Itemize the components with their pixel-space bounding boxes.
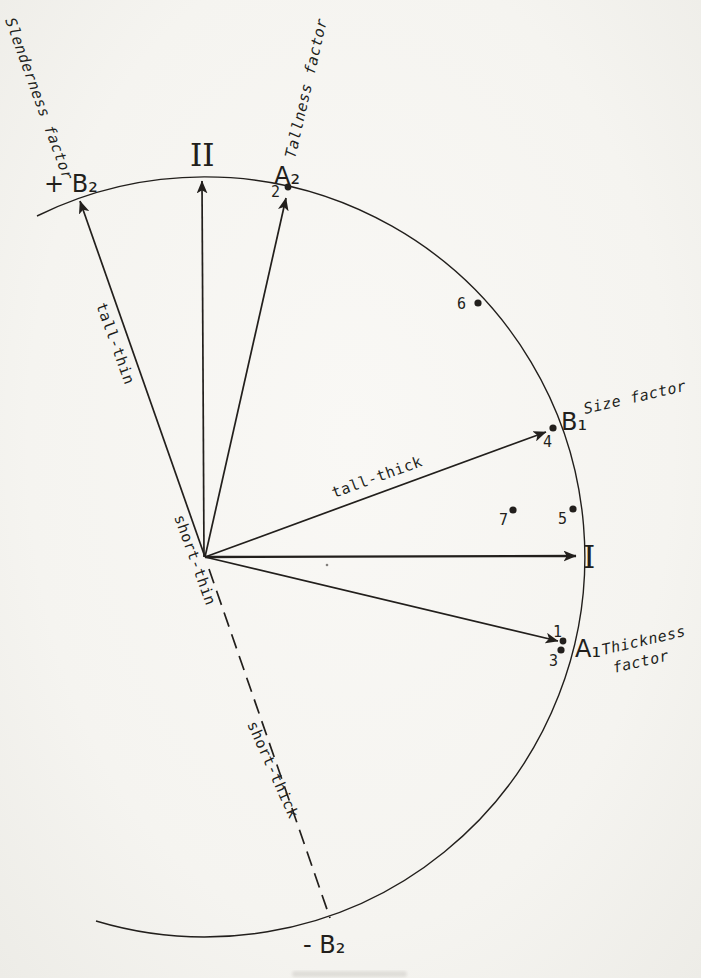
point-5-dot xyxy=(569,505,576,512)
point-7-label: 7 xyxy=(499,511,508,529)
size-factor-label: Size factor xyxy=(582,377,688,418)
vector-minus-B2-label: - B₂ xyxy=(303,931,345,959)
point-4-dot xyxy=(549,424,556,431)
vector-axis-II xyxy=(202,181,204,557)
point-6-label: 6 xyxy=(457,295,466,313)
slenderness-factor-label: Slenderness factor xyxy=(1,15,77,182)
vector-B1 xyxy=(205,432,546,557)
point-4-label: 4 xyxy=(543,433,552,451)
vector-A2 xyxy=(205,198,286,557)
vector-A1 xyxy=(205,557,558,641)
faint-caption-smudge xyxy=(292,971,407,977)
ink-speck xyxy=(326,564,329,567)
point-6-dot xyxy=(474,299,481,306)
tallness-factor-label: Tallness factor xyxy=(281,17,331,160)
point-3-dot xyxy=(557,646,564,653)
factor-rotation-diagram: 1 2 3 4 5 6 7 II I A₂ B₁ A₁ + B₂ - B₂ Sl… xyxy=(0,0,701,978)
point-1-label: 1 xyxy=(553,623,562,641)
point-3-label: 3 xyxy=(549,652,558,670)
point-7-dot xyxy=(509,506,516,513)
vector-A1-label: A₁ xyxy=(575,635,601,663)
vector-plus-B2 xyxy=(80,201,205,557)
vector-A2-label: A₂ xyxy=(274,162,300,190)
point-5-label: 5 xyxy=(558,510,567,528)
axis-I-label: I xyxy=(583,539,595,575)
vector-B1-label: B₁ xyxy=(561,408,587,436)
short-thick-label: short-thick xyxy=(243,718,302,821)
tall-thin-label: tall-thin xyxy=(92,300,138,387)
axis-II-label: II xyxy=(190,137,215,173)
scanned-page: 1 2 3 4 5 6 7 II I A₂ B₁ A₁ + B₂ - B₂ Sl… xyxy=(0,0,701,978)
vector-axis-I xyxy=(205,556,576,557)
